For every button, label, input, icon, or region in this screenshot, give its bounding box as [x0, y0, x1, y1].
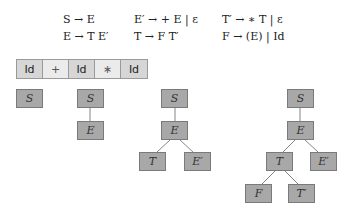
- tree2-node-e: E: [77, 121, 104, 140]
- tree3-node-e: E: [161, 121, 188, 140]
- tree2-node-s: S: [77, 89, 104, 108]
- tree3-node-e-prime: E′: [184, 152, 211, 171]
- tree4-node-t-prime: T′: [288, 184, 315, 203]
- tree3-node-s: S: [161, 89, 188, 108]
- edge: [157, 140, 170, 152]
- edge: [283, 140, 295, 152]
- tree4-node-s: S: [287, 89, 314, 108]
- edge: [305, 140, 318, 152]
- tree4-node-e: E: [287, 121, 314, 140]
- edge: [180, 140, 193, 152]
- tree3-node-t: T: [139, 152, 166, 171]
- edge: [262, 171, 275, 184]
- tree1-node-s: S: [16, 89, 43, 108]
- tree4-node-t: T: [266, 152, 293, 171]
- tree4-node-e-prime: E′: [310, 152, 337, 171]
- edge: [285, 171, 298, 184]
- tree4-node-f: F: [245, 184, 272, 203]
